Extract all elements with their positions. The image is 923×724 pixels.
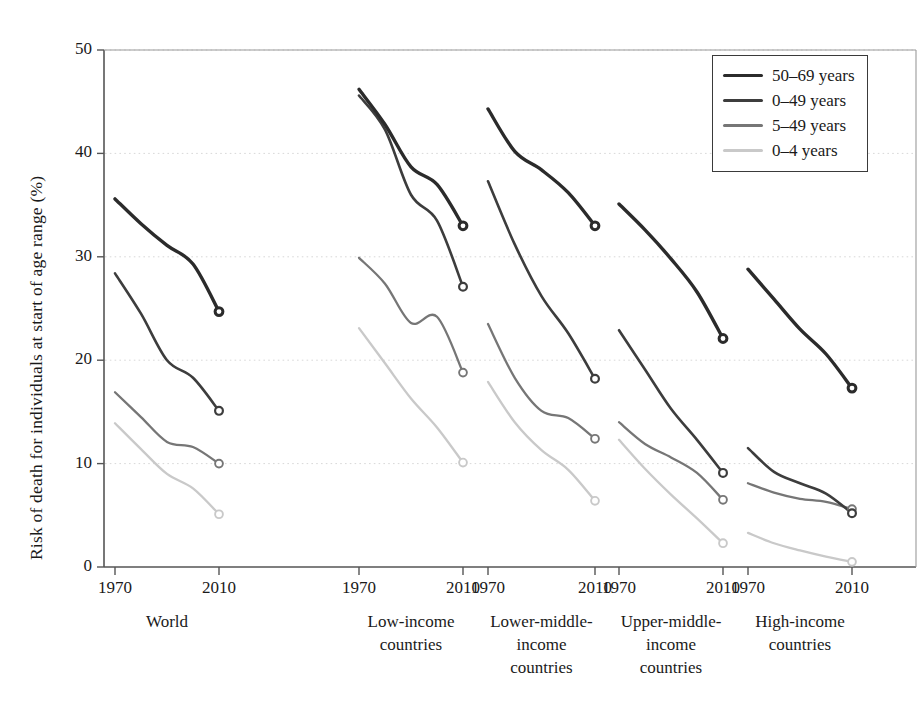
line-5-49-years <box>488 324 595 439</box>
endpoint-marker <box>459 222 467 230</box>
y-tick-label: 20 <box>40 349 92 369</box>
panel-label-3: Lower-middle-incomecountries <box>467 611 617 680</box>
y-tick-label: 40 <box>40 142 92 162</box>
endpoint-marker <box>215 510 223 518</box>
panel-label-line: countries <box>725 634 875 657</box>
panel-label-line: countries <box>596 657 746 680</box>
panel-series-2 <box>359 89 467 466</box>
panel-label-line: Upper-middle- <box>596 611 746 634</box>
endpoint-marker <box>459 459 467 467</box>
legend-item-2[interactable]: 0–49 years <box>723 88 855 113</box>
line-0-4-years <box>748 533 852 562</box>
line-5-49-years <box>619 422 723 500</box>
endpoint-marker <box>215 460 223 468</box>
y-tick-label: 50 <box>40 39 92 59</box>
endpoint-marker <box>591 435 599 443</box>
legend-line-swatch <box>723 94 763 108</box>
panel-series-4 <box>619 204 727 547</box>
endpoint-marker <box>591 497 599 505</box>
panel-label-line: High-income <box>725 611 875 634</box>
legend-label: 50–69 years <box>772 66 855 86</box>
line-0-49-years <box>488 181 595 378</box>
y-tick-label: 10 <box>40 453 92 473</box>
panel-series-1 <box>115 199 223 518</box>
line-50-69-years <box>359 89 463 225</box>
panel-label-4: Upper-middle-incomecountries <box>596 611 746 680</box>
line-0-49-years <box>359 96 463 287</box>
line-0-4-years <box>115 423 219 514</box>
legend-item-4[interactable]: 0–4 years <box>723 138 855 163</box>
endpoint-marker <box>848 509 856 517</box>
panel-series-3 <box>488 109 599 505</box>
panel-label-2: Low-incomecountries <box>336 611 486 657</box>
panel-label-line: World <box>92 611 242 634</box>
endpoint-marker <box>848 558 856 566</box>
endpoint-marker <box>719 539 727 547</box>
endpoint-marker <box>591 375 599 383</box>
legend-label: 0–49 years <box>772 91 846 111</box>
line-0-49-years <box>115 273 219 411</box>
endpoint-marker <box>215 407 223 415</box>
endpoint-marker <box>719 469 727 477</box>
line-0-49-years <box>619 330 723 473</box>
line-0-4-years <box>619 440 723 543</box>
x-tick-label: 1970 <box>85 578 145 598</box>
panel-label-line: income <box>467 634 617 657</box>
line-0-4-years <box>488 382 595 501</box>
y-tick-label: 0 <box>40 556 92 576</box>
line-50-69-years <box>619 204 723 338</box>
x-tick-label: 1970 <box>458 578 518 598</box>
line-50-69-years <box>115 199 219 312</box>
legend-item-3[interactable]: 5–49 years <box>723 113 855 138</box>
line-0-4-years <box>359 328 463 462</box>
endpoint-marker <box>848 384 856 392</box>
endpoint-marker <box>459 283 467 291</box>
legend-line-swatch <box>723 119 763 133</box>
line-5-49-years <box>359 258 463 373</box>
panel-label-line: Lower-middle- <box>467 611 617 634</box>
panel-label-line: countries <box>336 634 486 657</box>
legend-label: 0–4 years <box>772 141 838 161</box>
y-tick-label: 30 <box>40 246 92 266</box>
endpoint-marker <box>719 496 727 504</box>
endpoint-marker <box>215 308 223 316</box>
legend-item-1[interactable]: 50–69 years <box>723 63 855 88</box>
panel-label-5: High-incomecountries <box>725 611 875 657</box>
line-5-49-years <box>115 392 219 463</box>
line-50-69-years <box>748 269 852 388</box>
legend-line-swatch <box>723 144 763 158</box>
legend-line-swatch <box>723 69 763 83</box>
chart-figure: Risk of death for individuals at start o… <box>0 0 923 724</box>
line-50-69-years <box>488 109 595 226</box>
x-tick-label: 2010 <box>189 578 249 598</box>
panel-label-line: income <box>596 634 746 657</box>
x-tick-label: 2010 <box>822 578 882 598</box>
endpoint-marker <box>459 369 467 377</box>
x-tick-label: 1970 <box>718 578 778 598</box>
legend-label: 5–49 years <box>772 116 846 136</box>
endpoint-marker <box>719 335 727 343</box>
panel-series-5 <box>748 269 856 566</box>
panel-label-line: countries <box>467 657 617 680</box>
legend: 50–69 years0–49 years5–49 years0–4 years <box>712 55 868 172</box>
endpoint-marker <box>591 222 599 230</box>
line-5-49-years <box>748 483 852 509</box>
panel-label-1: World <box>92 611 242 634</box>
x-tick-label: 1970 <box>589 578 649 598</box>
x-tick-label: 1970 <box>329 578 389 598</box>
panel-label-line: Low-income <box>336 611 486 634</box>
